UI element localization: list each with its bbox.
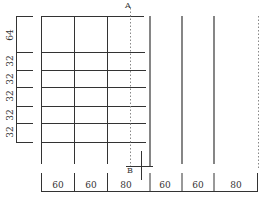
dim-v-3: 32 bbox=[5, 73, 15, 84]
dim-v-4: 32 bbox=[5, 90, 15, 101]
dim-v-2: 32 bbox=[5, 55, 15, 66]
grid-vertical-lines bbox=[42, 16, 215, 166]
dim-h-3: 80 bbox=[120, 180, 132, 190]
dim-h-2: 60 bbox=[85, 180, 97, 190]
dim-h-5: 60 bbox=[192, 180, 204, 190]
horizontal-dimension-line bbox=[41, 173, 258, 192]
grid-diagram: 64 32 32 32 32 32 A B bbox=[0, 0, 266, 198]
dim-v-1: 64 bbox=[5, 29, 15, 41]
dim-v-6: 32 bbox=[5, 126, 15, 137]
marker-a: A bbox=[124, 1, 131, 10]
marker-b: B bbox=[127, 166, 133, 175]
dim-v-5: 32 bbox=[5, 109, 15, 120]
dim-h-6: 80 bbox=[230, 180, 242, 190]
vertical-dimension-bracket bbox=[16, 16, 33, 143]
vertical-dimension-labels: 64 32 32 32 32 32 bbox=[5, 29, 15, 138]
dim-h-1: 60 bbox=[52, 180, 64, 190]
dim-h-4: 60 bbox=[159, 180, 171, 190]
